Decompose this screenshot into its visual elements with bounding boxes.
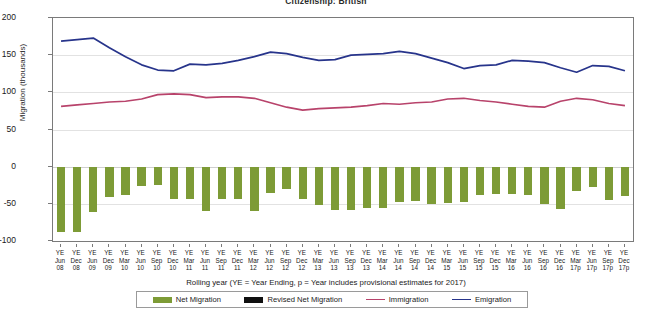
x-tick-mark — [350, 244, 351, 247]
x-axis-tick-labels: YEJun08YEDec08YEJun09YEDec09YEMar10YEJun… — [52, 244, 634, 278]
legend-swatch-bar — [244, 297, 263, 303]
x-tick-mark — [141, 244, 142, 247]
x-tick-mark — [60, 244, 61, 247]
x-tick-mark — [221, 244, 222, 247]
x-tick-mark — [495, 244, 496, 247]
migration-chart: Citizenship: British Migration (thousand… — [0, 0, 652, 317]
x-tick-mark — [302, 244, 303, 247]
chart-title: Citizenship: British — [0, 0, 652, 6]
legend-item[interactable]: Net Migration — [153, 295, 221, 304]
x-tick-mark — [592, 244, 593, 247]
legend-label: Emigration — [475, 295, 511, 304]
x-tick-mark — [366, 244, 367, 247]
x-tick-mark — [189, 244, 190, 247]
line-immigration — [61, 94, 625, 110]
x-tick-line: Dec — [618, 257, 629, 264]
x-tick-mark — [479, 244, 480, 247]
x-tick-mark — [608, 244, 609, 247]
y-tick-label: -50 — [0, 198, 16, 208]
x-tick-mark — [318, 244, 319, 247]
legend-swatch-line — [366, 299, 385, 300]
legend-swatch-line — [452, 299, 471, 300]
x-tick-mark — [205, 244, 206, 247]
legend-label: Revised Net Migration — [267, 295, 342, 304]
y-axis-title: Migration (thousands) — [18, 23, 27, 143]
legend-label: Net Migration — [176, 295, 221, 304]
legend-item[interactable]: Emigration — [452, 295, 511, 304]
plot-inner — [53, 18, 633, 241]
y-tick-label: 0 — [0, 161, 16, 171]
x-tick-mark — [108, 244, 109, 247]
y-tick-label: 200 — [0, 12, 16, 22]
x-tick-mark — [92, 244, 93, 247]
plot-area — [52, 17, 634, 242]
x-tick-mark — [415, 244, 416, 247]
legend-item[interactable]: Immigration — [366, 295, 429, 304]
x-tick-mark — [431, 244, 432, 247]
y-tick-label: 150 — [0, 49, 16, 59]
x-tick-mark — [76, 244, 77, 247]
x-tick-mark — [157, 244, 158, 247]
x-tick-mark — [382, 244, 383, 247]
x-tick-mark — [447, 244, 448, 247]
x-tick-mark — [270, 244, 271, 247]
x-tick-mark — [398, 244, 399, 247]
legend-label: Immigration — [389, 295, 429, 304]
x-tick-mark — [253, 244, 254, 247]
x-tick-mark — [286, 244, 287, 247]
x-tick-mark — [237, 244, 238, 247]
y-tick-label: 100 — [0, 86, 16, 96]
x-tick-mark — [511, 244, 512, 247]
legend-swatch-bar — [153, 297, 172, 303]
x-tick-line: YE — [620, 249, 628, 256]
line-emigration — [61, 38, 625, 72]
x-tick-mark — [463, 244, 464, 247]
x-tick-mark — [624, 244, 625, 247]
x-axis-title: Rolling year (YE = Year Ending, p = Year… — [0, 278, 652, 287]
x-tick-mark — [125, 244, 126, 247]
x-tick-mark — [560, 244, 561, 247]
line-series-layer — [53, 18, 633, 241]
x-tick-mark — [173, 244, 174, 247]
x-tick-mark — [527, 244, 528, 247]
x-tick-line: 17p — [619, 264, 630, 271]
x-tick-label: YEDec17p — [611, 249, 637, 272]
chart-legend: Net MigrationRevised Net MigrationImmigr… — [136, 291, 528, 308]
y-tick-label: 50 — [0, 124, 16, 134]
x-tick-mark — [543, 244, 544, 247]
x-tick-mark — [334, 244, 335, 247]
x-tick-mark — [576, 244, 577, 247]
legend-item[interactable]: Revised Net Migration — [244, 295, 342, 304]
y-tick-label: -100 — [0, 235, 16, 245]
